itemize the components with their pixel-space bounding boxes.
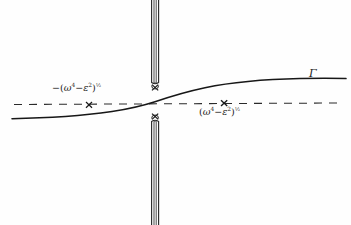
- left-label-outer-exponent: ½: [96, 82, 101, 88]
- left-label-minus: −: [75, 82, 83, 93]
- cross-left-marker: [86, 102, 92, 108]
- branch-point-lower-cross: [152, 114, 158, 120]
- contour-label-gamma: Γ: [309, 68, 317, 79]
- branch-cut-lower: [152, 114, 159, 225]
- branch-cut-lower-inner: [154, 121, 156, 225]
- branch-point-label-left: −(ω4−ε2)½: [52, 83, 101, 93]
- branch-cut-upper-outline: [152, 0, 159, 84]
- branch-cut-upper-inner: [154, 0, 156, 83]
- right-label-minus: −: [214, 106, 222, 117]
- branch-point-label-right: (ω4−ε2)½: [199, 107, 240, 117]
- contour-diagram-figure: −(ω4−ε2)½ (ω4−ε2)½ Γ: [0, 0, 351, 225]
- branch-cut-upper: [152, 0, 159, 90]
- right-label-outer-exponent: ½: [235, 106, 240, 112]
- diagram-canvas: [0, 0, 351, 225]
- branch-cut-lower-outline: [152, 120, 159, 225]
- branch-point-upper-cross: [152, 85, 158, 91]
- left-label-sign: −: [52, 82, 60, 93]
- real-axis-dashed-line: [14, 103, 340, 105]
